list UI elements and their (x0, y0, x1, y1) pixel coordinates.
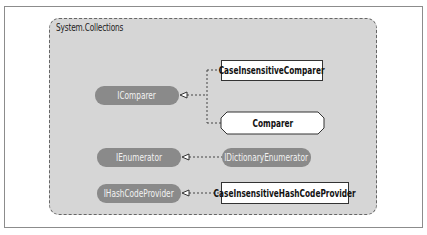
arrowhead-icon (180, 92, 187, 98)
arrowhead-icon (182, 190, 189, 196)
interface-icomparer[interactable]: IComparer (95, 86, 179, 105)
class-comparer[interactable]: Comparer (222, 113, 323, 133)
interface-ihashcodeprovider[interactable]: IHashCodeProvider (97, 184, 181, 203)
interface-ienumerator[interactable]: IEnumerator (97, 148, 181, 167)
arrowhead-icon (182, 154, 189, 160)
class-caseinsensitivecomparer[interactable]: CaseInsensitiveComparer (221, 60, 323, 81)
interface-idictionaryenumerator[interactable]: IDictionaryEnumerator (222, 148, 311, 167)
connector-lines (0, 0, 427, 235)
class-caseinsensitivehashcodeprovider[interactable]: CaseInsensitiveHashCodeProvider (221, 182, 349, 204)
